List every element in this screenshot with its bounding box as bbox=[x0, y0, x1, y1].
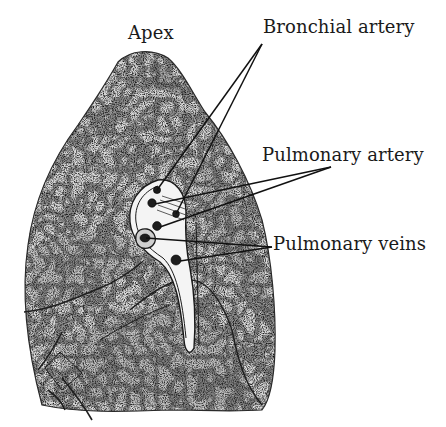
label-bronchial-artery: Bronchial artery bbox=[263, 18, 415, 36]
lung-illustration bbox=[0, 0, 446, 427]
label-pulmonary-veins: Pulmonary veins bbox=[273, 235, 426, 253]
label-apex: Apex bbox=[128, 24, 174, 42]
pulmonary-vein-vessel-2 bbox=[171, 255, 181, 265]
pulmonary-artery-vessel-2 bbox=[153, 222, 162, 231]
lung-diagram: Apex Bronchial artery Pulmonary artery P… bbox=[0, 0, 446, 427]
label-pulmonary-artery: Pulmonary artery bbox=[262, 146, 424, 164]
pulmonary-artery-vessel-1 bbox=[148, 199, 156, 207]
